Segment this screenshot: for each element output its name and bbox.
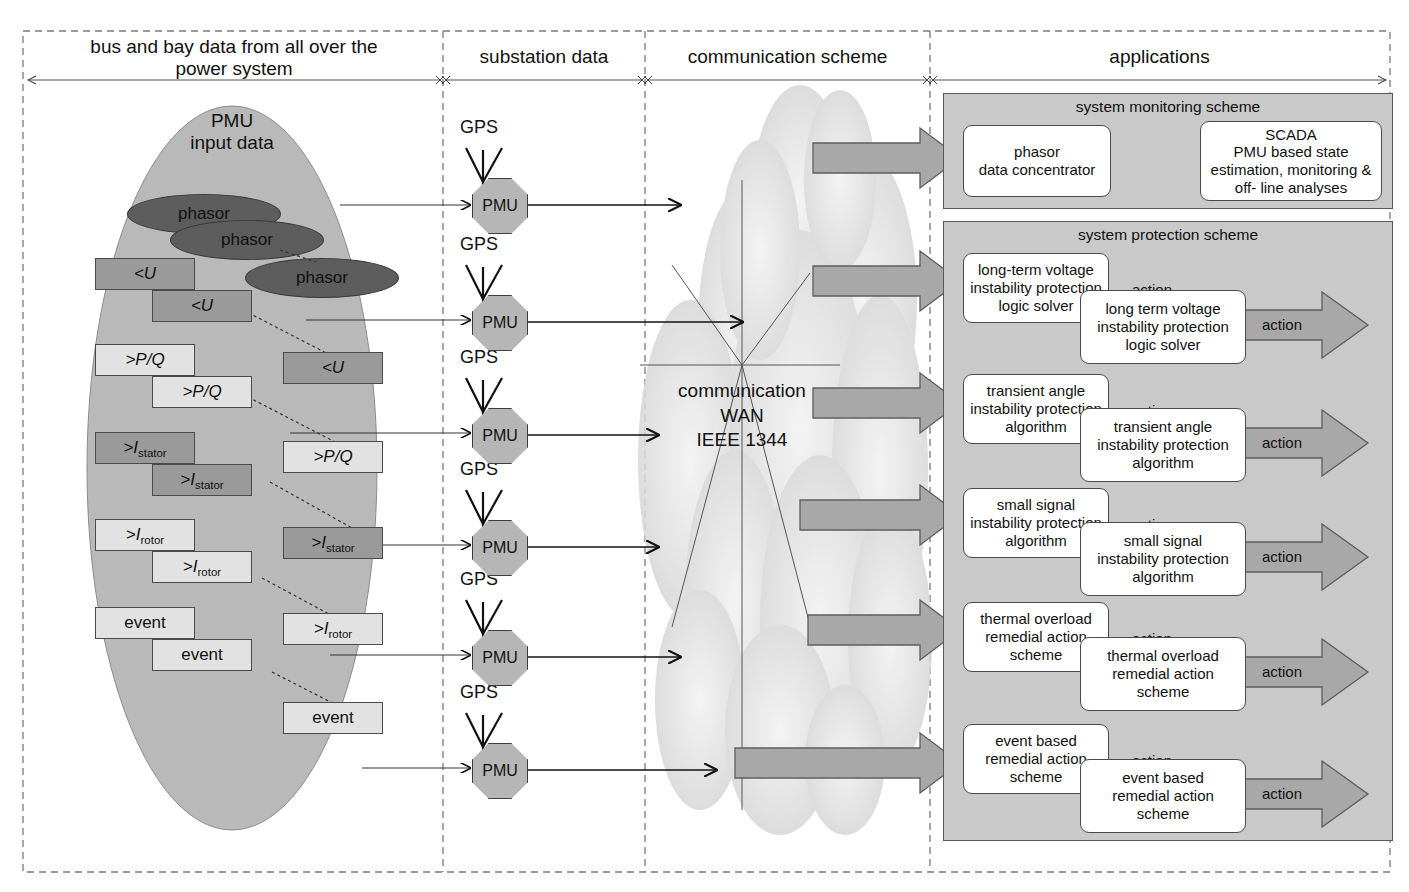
protection-front-box-4[interactable]: thermal overload remedial action scheme xyxy=(1080,637,1246,711)
protection-front-box-5[interactable]: event based remedial action scheme xyxy=(1080,759,1246,833)
action-label-front-4: action xyxy=(1262,663,1302,680)
protection-front-box-2[interactable]: transient angle instability protection a… xyxy=(1080,408,1246,482)
action-label-front-1: action xyxy=(1262,316,1302,333)
action-label-front-2: action xyxy=(1262,434,1302,451)
action-label-front-3: action xyxy=(1262,548,1302,565)
action-label-front-5: action xyxy=(1262,785,1302,802)
diagram-root: bus and bay data from all over the power… xyxy=(0,0,1409,892)
phasor-data-concentrator-box[interactable]: phasor data concentrator xyxy=(963,125,1111,197)
protection-front-box-1[interactable]: long term voltage instability protection… xyxy=(1080,290,1246,364)
protection-front-box-3[interactable]: small signal instability protection algo… xyxy=(1080,522,1246,596)
scada-box[interactable]: SCADA PMU based state estimation, monito… xyxy=(1200,121,1382,201)
